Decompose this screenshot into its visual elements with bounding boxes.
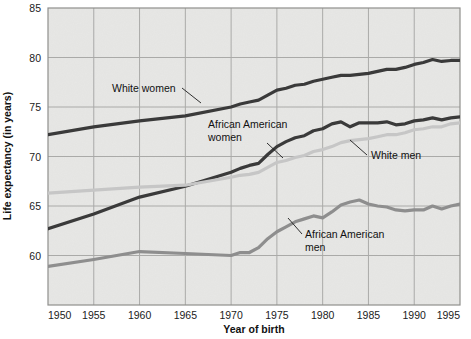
y-tick-label: 65 (29, 200, 41, 212)
annotation-text: White women (112, 82, 176, 94)
x-axis-title: Year of birth (223, 323, 284, 335)
x-tick-label: 1955 (82, 309, 106, 321)
annotation-text: African American (208, 118, 288, 130)
x-tick-label: 1980 (311, 309, 335, 321)
y-tick-label: 60 (29, 250, 41, 262)
annotation-text: African American (305, 228, 385, 240)
x-tick-label: 1990 (403, 309, 427, 321)
y-tick-label: 80 (29, 52, 41, 64)
y-tick-label: 70 (29, 151, 41, 163)
y-axis-title: Life expectancy (in years) (1, 92, 13, 220)
x-tick-label: 1960 (128, 309, 152, 321)
x-tick-label: 1995 (437, 309, 461, 321)
annotation-text: men (305, 241, 326, 253)
x-tick-label: 1970 (219, 309, 243, 321)
y-tick-label: 85 (29, 2, 41, 14)
life-expectancy-chart: 606570758085 195019551960196519701975198… (0, 0, 471, 339)
annotation-text: White men (371, 149, 421, 161)
x-tick-label: 1975 (265, 309, 289, 321)
x-tick-label: 1965 (174, 309, 198, 321)
x-tick-label: 1950 (48, 309, 72, 321)
y-tick-label: 75 (29, 101, 41, 113)
annotation-text: women (207, 131, 242, 143)
chart-canvas: 606570758085 195019551960196519701975198… (0, 0, 471, 339)
x-tick-label: 1985 (357, 309, 381, 321)
